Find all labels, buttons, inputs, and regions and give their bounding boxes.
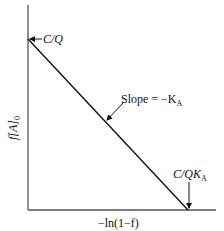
x-intercept-label: C/QKA	[173, 168, 207, 183]
y-axis-label-sub: 0	[13, 116, 22, 120]
slope-label: Slope = −KA	[121, 93, 182, 108]
x-axis-label: −ln(1−f)	[98, 217, 139, 229]
x-intercept-label-main: C/QK	[173, 167, 201, 181]
slope-label-main: Slope = −K	[121, 92, 177, 106]
data-line	[28, 39, 188, 210]
x-intercept-label-sub: A	[201, 174, 207, 183]
y-axis-label: f[A]0	[7, 116, 22, 140]
y-intercept-label: C/Q	[43, 33, 63, 45]
y-axis-label-main: f[A]	[6, 120, 20, 140]
diagram-canvas	[0, 0, 224, 231]
slope-label-sub: A	[177, 99, 183, 108]
